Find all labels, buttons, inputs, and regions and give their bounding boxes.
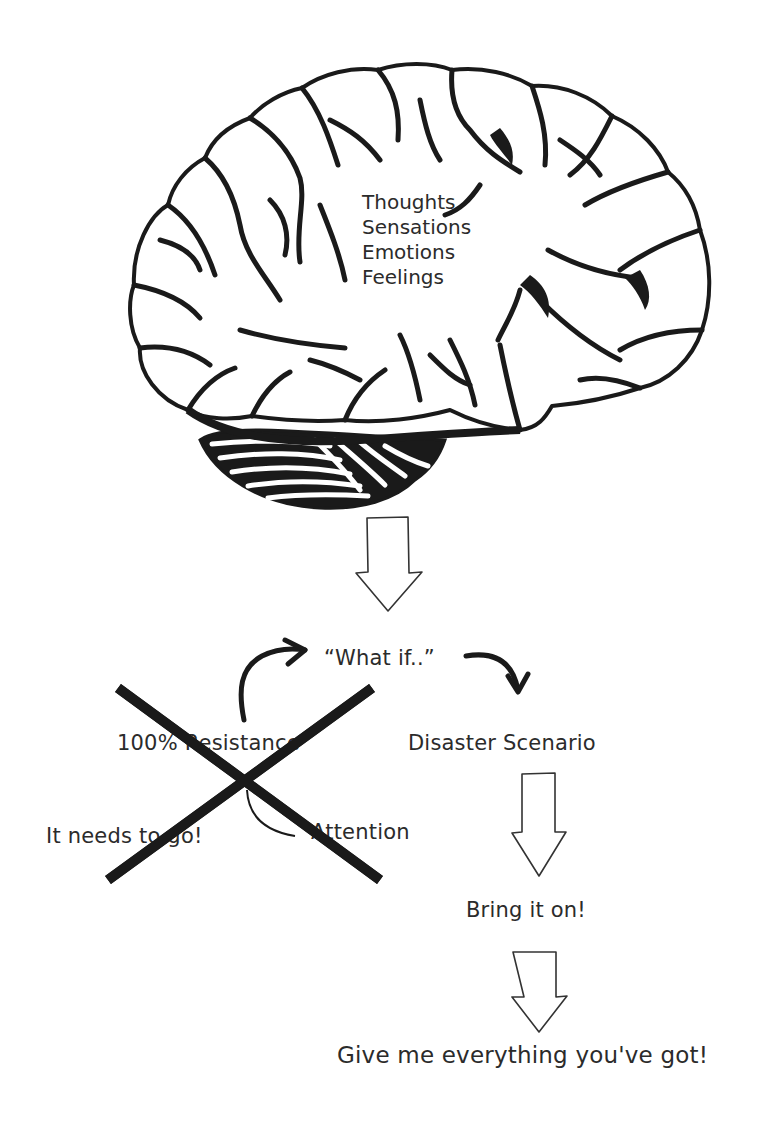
- cross-out-overlay: [0, 0, 780, 1123]
